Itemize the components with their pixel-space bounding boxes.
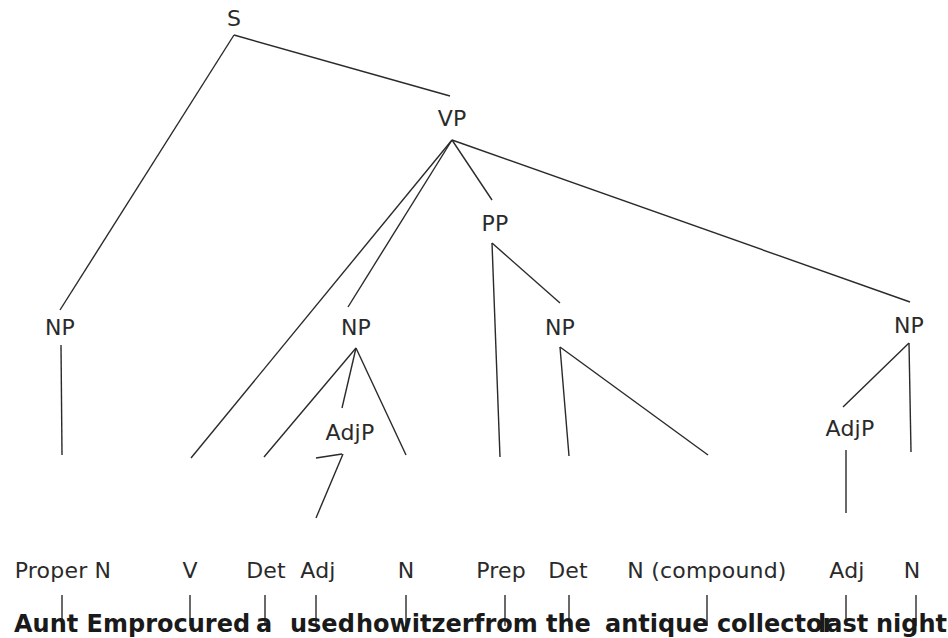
word-from: from xyxy=(474,612,538,636)
word-howitzer: howitzer xyxy=(356,612,474,636)
edge-vp-np xyxy=(348,140,452,307)
edge-np-n-2 xyxy=(909,343,911,452)
node-adjp-object: AdjP xyxy=(326,422,375,444)
edge-pp-np xyxy=(492,243,560,303)
node-adjp-time: AdjP xyxy=(826,418,875,440)
pos-adj-2: Adj xyxy=(829,560,864,582)
word-night: night xyxy=(876,612,947,636)
edge-vp-np-time xyxy=(452,140,910,302)
pos-proper-n: Proper N xyxy=(15,560,112,582)
edge-np-ncompound xyxy=(560,347,708,455)
pos-n-compound: N (compound) xyxy=(627,560,786,582)
edge-np-adjp-2 xyxy=(843,343,909,407)
edge-s-np xyxy=(60,35,234,310)
edge-adjp-adj xyxy=(316,454,343,518)
edge-vp-v xyxy=(191,140,452,458)
word-aunt-em: Aunt Em xyxy=(14,612,128,636)
word-the: the xyxy=(546,612,591,636)
pos-prep: Prep xyxy=(476,560,526,582)
word-procured: procured xyxy=(128,612,250,636)
edge-vp-pp xyxy=(452,140,492,200)
edge-s-vp xyxy=(234,35,450,96)
word-last: last xyxy=(818,612,868,636)
pos-det-2: Det xyxy=(548,560,588,582)
node-np-object: NP xyxy=(341,317,371,339)
pos-v: V xyxy=(182,560,197,582)
pos-adj: Adj xyxy=(300,560,335,582)
node-np-subject: NP xyxy=(45,317,75,339)
node-vp: VP xyxy=(438,108,467,130)
pos-n: N xyxy=(398,560,415,582)
pos-n-2: N xyxy=(904,560,921,582)
node-np-time: NP xyxy=(894,315,924,337)
word-a: a xyxy=(256,612,272,636)
node-s: S xyxy=(227,8,241,30)
pos-det: Det xyxy=(246,560,286,582)
node-np-pp: NP xyxy=(545,317,575,339)
edge-np-propern xyxy=(61,345,62,455)
word-used: used xyxy=(290,612,355,636)
edge-pp-prep xyxy=(492,243,500,457)
node-pp: PP xyxy=(482,213,509,235)
edge-adjp-adj-stub xyxy=(316,454,342,458)
edge-np-det-2 xyxy=(560,347,569,456)
word-antique-collector: antique collector xyxy=(605,612,834,636)
